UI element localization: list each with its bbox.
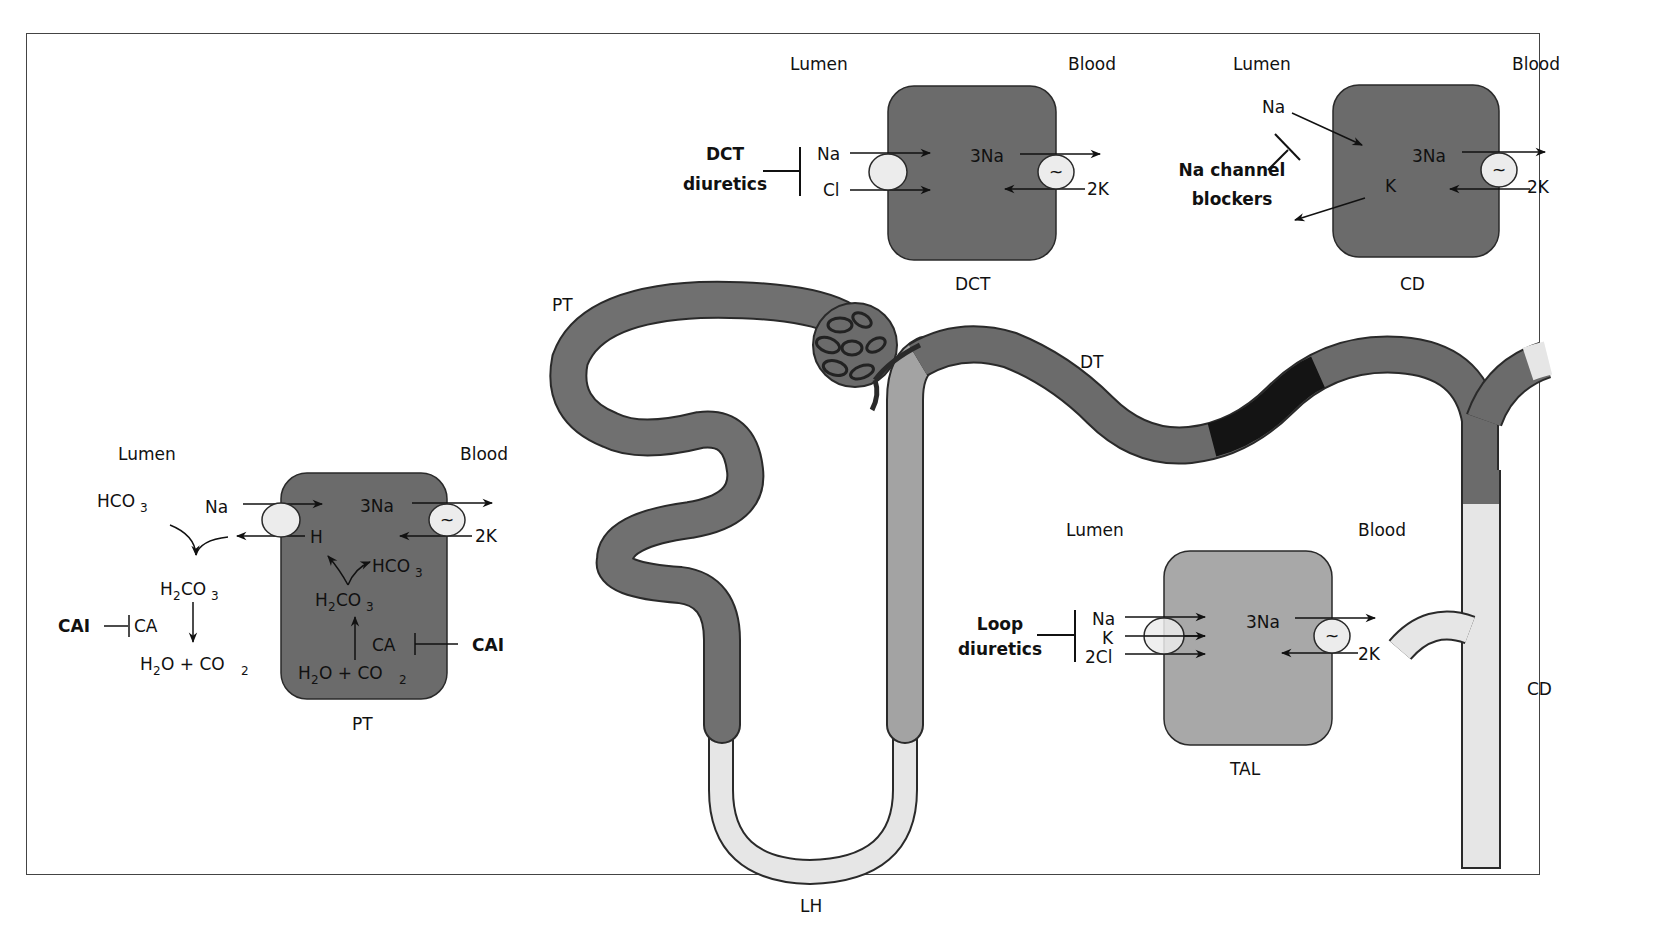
- cd-na: Na: [1262, 97, 1285, 117]
- dct-cl: Cl: [823, 180, 840, 200]
- label-lh: LH: [800, 896, 822, 916]
- svg-text:2: 2: [399, 673, 407, 687]
- dct-blood-label: Blood: [1068, 54, 1116, 74]
- dct-panel: Lumen Blood DCT diuretics Na Cl 3Na ~ 2K…: [683, 54, 1116, 294]
- svg-text:H: H: [160, 579, 173, 599]
- svg-text:CA: CA: [134, 616, 158, 636]
- dct-cell: [888, 86, 1056, 260]
- dct-lumen-label: Lumen: [790, 54, 848, 74]
- cd-panel: Lumen Blood Na Na channel blockers K 3Na…: [1179, 54, 1560, 294]
- cd-cell: [1333, 85, 1499, 257]
- svg-text:HCO: HCO: [97, 491, 135, 511]
- svg-text:H: H: [298, 663, 311, 683]
- svg-text:CO: CO: [181, 579, 206, 599]
- svg-text:~: ~: [440, 510, 454, 530]
- pt-h: H: [310, 527, 323, 547]
- svg-text:O + CO: O + CO: [319, 663, 383, 683]
- pt-lumen-label: Lumen: [118, 444, 176, 464]
- pt-antiporter-icon: [262, 503, 300, 537]
- label-dt: DT: [1080, 352, 1104, 372]
- svg-text:3: 3: [366, 600, 374, 614]
- svg-text:2: 2: [173, 589, 181, 603]
- svg-text:HCO: HCO: [372, 556, 410, 576]
- svg-text:CO: CO: [336, 590, 361, 610]
- tal-cell: [1164, 551, 1332, 745]
- cd-drug-line1: Na channel: [1179, 160, 1286, 180]
- label-pt: PT: [552, 295, 573, 315]
- pt-cai-left: CAI: [58, 616, 90, 636]
- dct-cell-label: DCT: [955, 274, 991, 294]
- tal-k: K: [1102, 628, 1114, 648]
- cd-drug-line2: blockers: [1192, 189, 1273, 209]
- dct-drug-line1: DCT: [706, 144, 745, 164]
- tal-pump-k: 2K: [1358, 644, 1381, 664]
- tal-lumen-label: Lumen: [1066, 520, 1124, 540]
- cd-pump-na: 3Na: [1412, 146, 1446, 166]
- tal-cell-label: TAL: [1229, 759, 1261, 779]
- svg-text:3: 3: [211, 589, 219, 603]
- svg-text:O + CO: O + CO: [161, 654, 225, 674]
- dct-pump-k: 2K: [1087, 179, 1110, 199]
- nephron-diuretics-diagram: PT DT LH CD Lumen Blood DCT diuretics Na…: [0, 0, 1654, 948]
- svg-text:3: 3: [140, 501, 148, 515]
- dct-pump-na: 3Na: [970, 146, 1004, 166]
- tal-drug-line1: Loop: [977, 614, 1023, 634]
- cd-lumen-label: Lumen: [1233, 54, 1291, 74]
- pt-pump-k: 2K: [475, 526, 498, 546]
- svg-text:H: H: [140, 654, 153, 674]
- cd-blood-label: Blood: [1512, 54, 1560, 74]
- dct-na: Na: [817, 144, 840, 164]
- pt-panel: Lumen Blood HCO 3 Na H 3Na ~ 2K H 2 CO 3…: [58, 444, 508, 734]
- svg-text:CA: CA: [372, 635, 396, 655]
- pt-na: Na: [205, 497, 228, 517]
- cd-pump-k: 2K: [1527, 177, 1550, 197]
- tal-blood-label: Blood: [1358, 520, 1406, 540]
- svg-text:2: 2: [328, 600, 336, 614]
- tal-cl: 2Cl: [1085, 647, 1112, 667]
- dct-symporter-icon: [869, 154, 907, 190]
- svg-text:~: ~: [1049, 162, 1063, 182]
- tal-panel: Lumen Blood Loop diuretics Na K 2Cl 3Na …: [958, 520, 1406, 779]
- svg-text:~: ~: [1492, 160, 1506, 180]
- cd-k: K: [1385, 176, 1397, 196]
- svg-text:H: H: [315, 590, 328, 610]
- pt-cell-label: PT: [352, 714, 373, 734]
- svg-text:2: 2: [241, 664, 249, 678]
- label-cd: CD: [1527, 679, 1552, 699]
- pt-blood-label: Blood: [460, 444, 508, 464]
- connecting-segment-black: [1212, 372, 1318, 440]
- pt-cai-right: CAI: [472, 635, 504, 655]
- collecting-duct: [1462, 500, 1500, 868]
- cd-cell-label: CD: [1400, 274, 1425, 294]
- tal-na: Na: [1092, 609, 1115, 629]
- nephron: [568, 300, 1548, 872]
- dct-drug-line2: diuretics: [683, 174, 767, 194]
- tal-drug-line2: diuretics: [958, 639, 1042, 659]
- svg-text:~: ~: [1325, 626, 1339, 646]
- svg-text:2: 2: [153, 664, 161, 678]
- tal-pump-na: 3Na: [1246, 612, 1280, 632]
- svg-text:3: 3: [415, 566, 423, 580]
- pt-pump-na: 3Na: [360, 496, 394, 516]
- svg-text:2: 2: [311, 673, 319, 687]
